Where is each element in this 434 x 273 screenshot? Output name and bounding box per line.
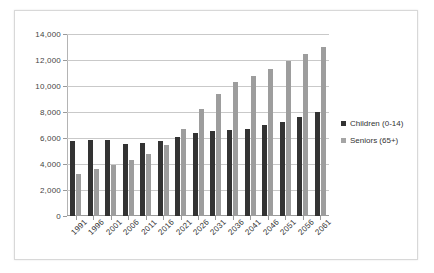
x-axis-label-cell: 1996 [84, 221, 101, 261]
bar-seniors [164, 145, 169, 217]
x-axis-labels: 1991199620012006201120162021202620312036… [67, 221, 329, 261]
bar-children [105, 140, 110, 216]
x-axis-label-cell: 2031 [207, 221, 224, 261]
bar-children [262, 125, 267, 216]
x-axis-label-cell: 2051 [277, 221, 294, 261]
chart-area: 14,00012,00010,0008,0006,0004,0002,0000 … [15, 11, 417, 259]
legend-item-label: Seniors (65+) [350, 136, 398, 145]
x-axis-label-cell: 2056 [294, 221, 311, 261]
bar-seniors [268, 69, 273, 216]
bar-children [140, 143, 145, 216]
y-axis-tick-label: 2,000 [40, 186, 61, 195]
legend-item[interactable]: Seniors (65+) [341, 136, 403, 145]
legend-item[interactable]: Children (0-14) [341, 119, 403, 128]
bar-seniors [94, 169, 99, 216]
chart-legend: Children (0-14)Seniors (65+) [341, 119, 403, 145]
bar-group [67, 34, 84, 216]
bar-children [158, 141, 163, 216]
bar-group [154, 34, 171, 216]
x-axis-label-cell: 2041 [242, 221, 259, 261]
bar-seniors [129, 160, 134, 216]
y-axis-tick-label: 10,000 [35, 82, 61, 91]
y-axis-tick-label: 8,000 [40, 108, 61, 117]
bar-group [189, 34, 206, 216]
bar-seniors [146, 154, 151, 216]
bar-children [88, 140, 93, 216]
bar-seniors [286, 61, 291, 216]
bar-group [172, 34, 189, 216]
bar-children [297, 117, 302, 216]
x-axis-label-cell: 2061 [312, 221, 329, 261]
bar-seniors [199, 109, 204, 216]
chart-frame: 14,00012,00010,0008,0006,0004,0002,0000 … [14, 10, 418, 260]
bar-seniors [233, 82, 238, 216]
bar-group [242, 34, 259, 216]
bar-children [227, 130, 232, 216]
legend-swatch-icon [341, 121, 346, 126]
bar-group [119, 34, 136, 216]
x-axis-label-cell: 2016 [154, 221, 171, 261]
bar-seniors [76, 174, 81, 216]
x-axis-label-cell: 1991 [67, 221, 84, 261]
y-axis-tick-label: 4,000 [40, 160, 61, 169]
x-axis-label-cell: 2006 [119, 221, 136, 261]
bar-group [102, 34, 119, 216]
bar-group [137, 34, 154, 216]
x-axis-label-cell: 2046 [259, 221, 276, 261]
x-axis-label-cell: 2011 [137, 221, 154, 261]
bar-seniors [111, 165, 116, 216]
bar-children [245, 129, 250, 216]
bar-children [70, 141, 75, 216]
x-axis-label-cell: 2036 [224, 221, 241, 261]
y-axis-tick-label: 14,000 [35, 30, 61, 39]
x-axis-label-cell: 2001 [102, 221, 119, 261]
bar-seniors [181, 129, 186, 216]
bar-group [312, 34, 329, 216]
bar-group [294, 34, 311, 216]
bar-group [224, 34, 241, 216]
bar-seniors [303, 54, 308, 217]
bar-children [175, 137, 180, 216]
y-axis-tick-label: 6,000 [40, 134, 61, 143]
bar-group [277, 34, 294, 216]
bar-children [315, 112, 320, 216]
bar-groups [67, 34, 329, 216]
legend-item-label: Children (0-14) [350, 119, 403, 128]
bar-children [210, 131, 215, 216]
bar-children [193, 133, 198, 216]
bar-group [207, 34, 224, 216]
bar-children [123, 144, 128, 216]
bar-seniors [251, 76, 256, 216]
bar-seniors [321, 47, 326, 216]
bar-children [280, 122, 285, 216]
y-axis-tick-label: 12,000 [35, 56, 61, 65]
x-axis-label-cell: 2021 [172, 221, 189, 261]
x-axis-tick-label: 2061 [314, 217, 334, 237]
legend-swatch-icon [341, 138, 346, 143]
x-axis-label-cell: 2026 [189, 221, 206, 261]
bar-group [259, 34, 276, 216]
plot-area: 14,00012,00010,0008,0006,0004,0002,0000 [67, 34, 329, 216]
bar-seniors [216, 94, 221, 216]
y-axis-tick-label: 0 [56, 212, 61, 221]
bar-group [84, 34, 101, 216]
